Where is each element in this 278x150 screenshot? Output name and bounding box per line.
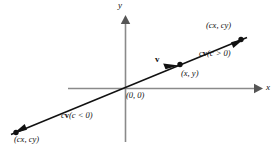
cv-positive-condition: (c > 0) xyxy=(207,48,231,58)
origin-label: (0, 0) xyxy=(126,91,144,100)
x-axis-label: x xyxy=(266,83,270,92)
vector-cv-positive-label: cv(c > 0) xyxy=(199,49,231,58)
vector-v-label: v xyxy=(155,54,160,64)
x-axis-arrowhead xyxy=(254,84,263,93)
point-label-xy: (x, y) xyxy=(181,69,198,78)
vector-scalar-multiplication-figure: y x (0, 0) (cx, cy) (x, y) (cx, cy) v cv… xyxy=(0,0,278,150)
figure-canvas xyxy=(0,0,278,150)
y-axis-label: y xyxy=(118,1,122,10)
vector-cv-negative-label: cv(c < 0) xyxy=(61,111,93,120)
cv-negative-condition: (c < 0) xyxy=(69,110,93,120)
point-label-cxcy-negative: (cx, cy) xyxy=(14,135,39,144)
y-axis-arrowhead xyxy=(121,15,130,24)
axes-group xyxy=(68,15,263,142)
dot-cxcy-positive xyxy=(238,37,243,42)
dot-xy xyxy=(177,62,182,67)
point-label-cxcy-positive: (cx, cy) xyxy=(206,21,231,30)
